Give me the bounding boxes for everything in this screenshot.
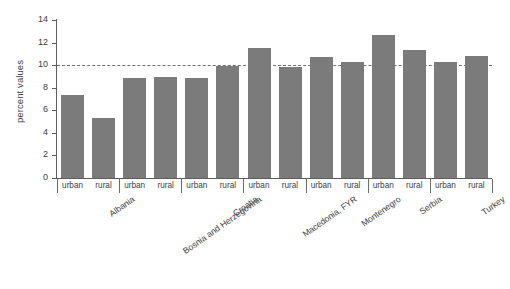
y-axis-tick-label: 6 — [18, 104, 48, 114]
urban-rural-label: urban — [430, 179, 461, 193]
country-label: Serbia — [417, 194, 443, 216]
y-axis-tick-label: 14 — [18, 14, 48, 24]
urban-rural-label: urban — [368, 179, 399, 193]
urban-rural-label: urban — [181, 179, 212, 193]
bar — [279, 67, 302, 178]
urban-rural-label: rural — [337, 179, 368, 193]
y-axis-tick-label: 10 — [18, 59, 48, 69]
country-label: Albania — [107, 194, 136, 219]
group-separator — [57, 179, 58, 193]
country-label-band: AlbaniaBosnia and HerzegovinaCroatiaMace… — [57, 194, 507, 284]
y-axis-tick-label: 0 — [18, 172, 48, 182]
bar — [185, 78, 208, 178]
y-axis-tick-label: 4 — [18, 127, 48, 137]
country-label: Turkey — [480, 194, 507, 217]
bar — [434, 62, 457, 178]
urban-rural-label: rural — [150, 179, 181, 193]
bar — [123, 78, 146, 178]
bar — [61, 95, 84, 178]
country-label: Macedonia, FYR — [300, 194, 358, 239]
urban-rural-label-band: urbanruralurbanruralurbanruralurbanrural… — [57, 179, 492, 193]
urban-rural-label: rural — [461, 179, 492, 193]
y-axis-tick-label: 8 — [18, 82, 48, 92]
group-separator — [368, 179, 369, 193]
country-label: Montenegro — [359, 194, 402, 229]
bar — [216, 66, 239, 178]
bar — [248, 48, 271, 178]
bar — [341, 62, 364, 178]
bar — [154, 77, 177, 178]
urban-rural-label: rural — [275, 179, 306, 193]
urban-rural-label: rural — [212, 179, 243, 193]
group-separator — [181, 179, 182, 193]
bar-chart: percent values 02468101214 urbanruralurb… — [0, 0, 510, 289]
urban-rural-label: urban — [57, 179, 88, 193]
urban-rural-label: urban — [244, 179, 275, 193]
bar-series — [57, 20, 492, 178]
y-axis-tick-label: 12 — [18, 37, 48, 47]
bar — [465, 56, 488, 178]
urban-rural-label: rural — [88, 179, 119, 193]
urban-rural-label: urban — [306, 179, 337, 193]
y-axis-tick-label: 2 — [18, 149, 48, 159]
bar — [372, 35, 395, 178]
plot-area: 02468101214 — [57, 20, 492, 178]
group-separator — [306, 179, 307, 193]
bar — [310, 57, 333, 178]
bar — [92, 118, 115, 178]
urban-rural-label: urban — [119, 179, 150, 193]
group-separator — [492, 179, 493, 193]
urban-rural-label: rural — [399, 179, 430, 193]
bar — [403, 50, 426, 178]
group-separator — [119, 179, 120, 193]
group-separator — [243, 179, 244, 193]
group-separator — [430, 179, 431, 193]
